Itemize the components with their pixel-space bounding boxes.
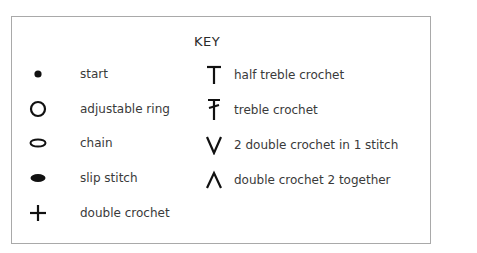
key-title: KEY	[194, 34, 220, 49]
dot-icon	[28, 64, 48, 84]
key-item-label: double crochet	[80, 206, 170, 220]
key-item-label: slip stitch	[80, 171, 138, 185]
caret-icon	[204, 170, 224, 190]
key-item-label: treble crochet	[234, 103, 318, 117]
key-item-treble-crochet: treble crochet	[204, 100, 224, 120]
key-item-2dc-in-1-stitch: 2 double crochet in 1 stitch	[204, 135, 224, 155]
key-item-start: start	[28, 64, 48, 84]
circle-icon	[28, 99, 48, 119]
key-item-slip-stitch: slip stitch	[28, 168, 48, 188]
v-icon	[204, 135, 224, 155]
key-item-label: half treble crochet	[234, 68, 344, 82]
key-item-label: chain	[80, 136, 113, 150]
key-item-label: double crochet 2 together	[234, 173, 391, 187]
oval-outline-icon	[28, 133, 48, 153]
key-item-double-crochet: double crochet	[28, 203, 48, 223]
key-box	[11, 16, 431, 244]
key-item-label: adjustable ring	[80, 102, 170, 116]
key-item-label: start	[80, 67, 108, 81]
key-item-label: 2 double crochet in 1 stitch	[234, 138, 398, 152]
key-item-adjustable-ring: adjustable ring	[28, 99, 48, 119]
crossed-t-icon	[204, 100, 224, 120]
t-icon	[204, 65, 224, 85]
key-item-dc2tog: double crochet 2 together	[204, 170, 224, 190]
plus-icon	[28, 203, 48, 223]
filled-oval-icon	[28, 168, 48, 188]
key-item-half-treble-crochet: half treble crochet	[204, 65, 224, 85]
key-item-chain: chain	[28, 133, 48, 153]
